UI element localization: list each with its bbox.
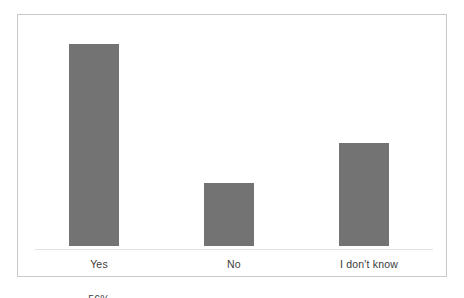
bar-value-label-yes: 56% [34,293,164,298]
category-label-yes: Yes [34,258,164,270]
bar-yes [69,44,119,246]
plot-area: 56% Yes 17% No 28% I don't know [18,15,446,276]
category-axis-line [35,249,433,250]
bar-i-dont-know [339,143,389,246]
bar-chart-figure: 56% Yes 17% No 28% I don't know [0,0,464,298]
category-label-no: No [169,258,299,270]
chart-frame: 56% Yes 17% No 28% I don't know [17,14,447,277]
bar-no [204,183,254,246]
category-label-i-dont-know: I don't know [304,258,434,270]
